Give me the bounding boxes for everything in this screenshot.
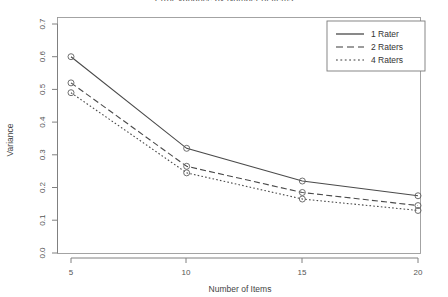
x-tick-label: 15 — [298, 268, 307, 277]
y-tick-label: 0.4 — [38, 116, 47, 128]
chart-container: Error Variance by Number of Items 0.7 0.… — [0, 0, 448, 297]
x-axis-ticks — [71, 258, 418, 263]
y-axis-tick-labels: 0.7 0.6 0.5 0.4 0.3 0.2 0.1 0.0 — [38, 18, 47, 259]
y-tick-label: 0.5 — [38, 83, 47, 95]
y-tick-label: 0.6 — [38, 51, 47, 63]
y-axis-ticks — [52, 24, 58, 253]
x-axis-title: Number of Items — [209, 284, 272, 294]
chart-svg: 0.7 0.6 0.5 0.4 0.3 0.2 0.1 0.0 Variance… — [0, 0, 448, 297]
y-tick-label: 0.7 — [38, 18, 47, 30]
y-tick-label: 0.1 — [38, 214, 47, 226]
data-series-layer — [68, 54, 421, 214]
series-line-2-raters — [71, 83, 418, 206]
y-axis-title: Variance — [5, 123, 15, 156]
series-line-1-rater — [71, 57, 418, 196]
legend-label-4-raters: 4 Raters — [371, 55, 403, 65]
x-tick-label: 5 — [69, 268, 74, 277]
legend-label-1-rater: 1 Rater — [371, 29, 399, 39]
x-tick-label: 10 — [182, 268, 191, 277]
y-tick-label: 0.2 — [38, 181, 47, 193]
y-tick-label: 0.3 — [38, 149, 47, 161]
y-tick-label: 0.0 — [38, 247, 47, 259]
x-axis-tick-labels: 5 10 15 20 — [69, 268, 423, 277]
x-tick-label: 20 — [414, 268, 423, 277]
chart-legend: 1 Rater 2 Raters 4 Raters — [327, 21, 425, 71]
legend-label-2-raters: 2 Raters — [371, 42, 403, 52]
series-line-4-raters — [71, 93, 418, 211]
